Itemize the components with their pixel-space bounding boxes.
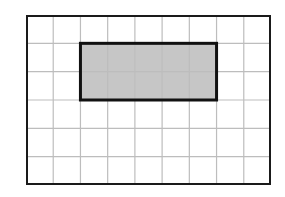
grid-canvas <box>26 15 271 185</box>
grid-diagram <box>26 15 271 185</box>
